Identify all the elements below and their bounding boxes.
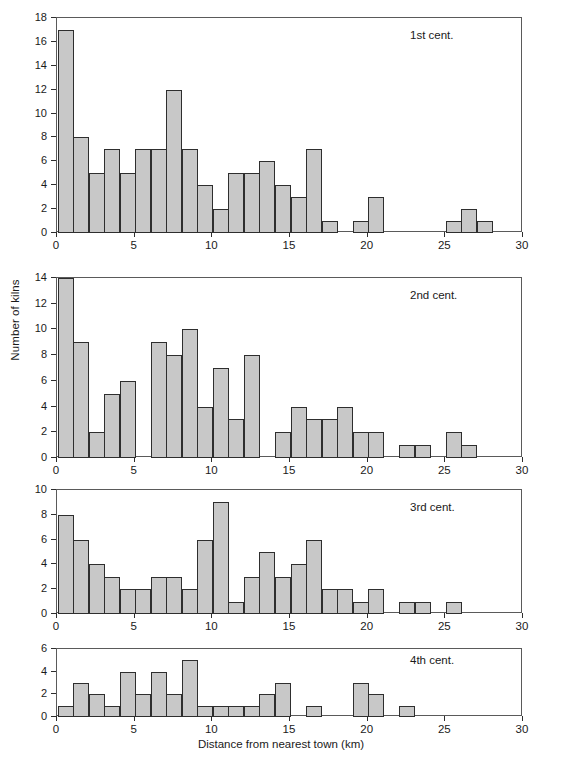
x-tick-label: 25: [429, 621, 459, 633]
x-tick-mark: [211, 716, 212, 721]
x-tick-label: 30: [507, 724, 537, 736]
histogram-bar: [135, 149, 151, 233]
histogram-bar: [89, 432, 105, 458]
y-tick-mark: [51, 277, 56, 278]
y-tick-label: 0: [16, 711, 47, 722]
x-tick-mark: [134, 232, 135, 237]
histogram-bar: [337, 589, 353, 614]
histogram-bar: [182, 149, 198, 233]
y-tick-mark: [51, 406, 56, 407]
x-tick-mark: [444, 457, 445, 462]
histogram-bar: [58, 706, 74, 717]
histogram-bar: [353, 221, 369, 233]
histogram-bar: [275, 577, 291, 614]
x-tick-mark: [56, 457, 57, 462]
histogram-bar: [213, 209, 229, 233]
histogram-bar: [353, 683, 369, 717]
histogram-bar: [89, 173, 105, 233]
y-tick-mark: [51, 671, 56, 672]
x-tick-label: 30: [507, 240, 537, 252]
x-tick-mark: [444, 716, 445, 721]
x-tick-mark: [211, 613, 212, 618]
histogram-bar: [399, 445, 415, 458]
histogram-bar: [120, 173, 136, 233]
histogram-bar: [182, 660, 198, 717]
histogram-bar: [197, 706, 213, 717]
histogram-bar: [73, 342, 89, 458]
y-tick-mark: [51, 232, 56, 233]
x-tick-label: 15: [274, 724, 304, 736]
x-tick-label: 10: [196, 621, 226, 633]
histogram-bar: [322, 589, 338, 614]
x-tick-mark: [367, 232, 368, 237]
x-tick-mark: [522, 716, 523, 721]
histogram-bar: [306, 540, 322, 614]
histogram-bar: [197, 185, 213, 233]
x-tick-mark: [134, 716, 135, 721]
histogram-bar: [399, 602, 415, 614]
x-tick-label: 5: [119, 621, 149, 633]
histogram-bar: [368, 432, 384, 458]
histogram-bar: [166, 355, 182, 458]
histogram-bar: [368, 694, 384, 717]
histogram-bar: [337, 407, 353, 458]
y-tick-mark: [51, 613, 56, 614]
y-tick-mark: [51, 89, 56, 90]
histogram-bar: [446, 602, 462, 614]
x-tick-label: 0: [41, 724, 71, 736]
x-tick-mark: [289, 232, 290, 237]
histogram-bar: [151, 577, 167, 614]
x-tick-label: 20: [352, 724, 382, 736]
x-tick-mark: [211, 457, 212, 462]
panel-2: 024681012140510152025302nd cent.: [0, 0, 562, 772]
y-tick-mark: [51, 716, 56, 717]
x-tick-label: 15: [274, 465, 304, 477]
histogram-bar: [58, 30, 74, 233]
histogram-bar: [461, 209, 477, 233]
x-tick-label: 30: [507, 465, 537, 477]
histogram-bar: [104, 706, 120, 717]
y-tick-mark: [51, 303, 56, 304]
x-tick-label: 10: [196, 724, 226, 736]
histogram-bar: [275, 432, 291, 458]
y-tick-mark: [51, 160, 56, 161]
histogram-bar: [197, 407, 213, 458]
x-tick-mark: [211, 232, 212, 237]
histogram-bar: [259, 694, 275, 717]
x-tick-label: 5: [119, 724, 149, 736]
histogram-bar: [135, 589, 151, 614]
x-tick-mark: [367, 716, 368, 721]
y-axis-title-wrap: Number of kilns: [0, 0, 30, 640]
histogram-bar: [166, 90, 182, 233]
histogram-bar: [415, 602, 431, 614]
x-tick-mark: [134, 613, 135, 618]
y-tick-mark: [51, 489, 56, 490]
x-tick-mark: [444, 613, 445, 618]
histogram-bar: [415, 445, 431, 458]
histogram-figure: Number of kilns 024681012141618051015202…: [0, 0, 562, 772]
x-tick-mark: [522, 613, 523, 618]
panel-label-3: 3rd cent.: [410, 501, 455, 513]
histogram-bar: [213, 706, 229, 717]
histogram-bar: [306, 706, 322, 717]
histogram-bar: [259, 552, 275, 614]
histogram-bar: [322, 419, 338, 458]
x-tick-label: 5: [119, 465, 149, 477]
histogram-bar: [120, 381, 136, 458]
x-axis-title: Distance from nearest town (km): [0, 738, 562, 750]
x-tick-label: 30: [507, 621, 537, 633]
y-tick-mark: [51, 113, 56, 114]
histogram-bar: [275, 683, 291, 717]
y-tick-mark: [51, 65, 56, 66]
histogram-bar: [322, 221, 338, 233]
y-tick-mark: [51, 588, 56, 589]
x-tick-label: 0: [41, 240, 71, 252]
histogram-bar: [104, 577, 120, 614]
histogram-bar: [89, 564, 105, 614]
x-tick-label: 0: [41, 621, 71, 633]
histogram-bar: [228, 419, 244, 458]
y-tick-mark: [51, 648, 56, 649]
y-tick-label: 2: [16, 688, 47, 699]
y-tick-mark: [51, 184, 56, 185]
histogram-bar: [353, 602, 369, 614]
